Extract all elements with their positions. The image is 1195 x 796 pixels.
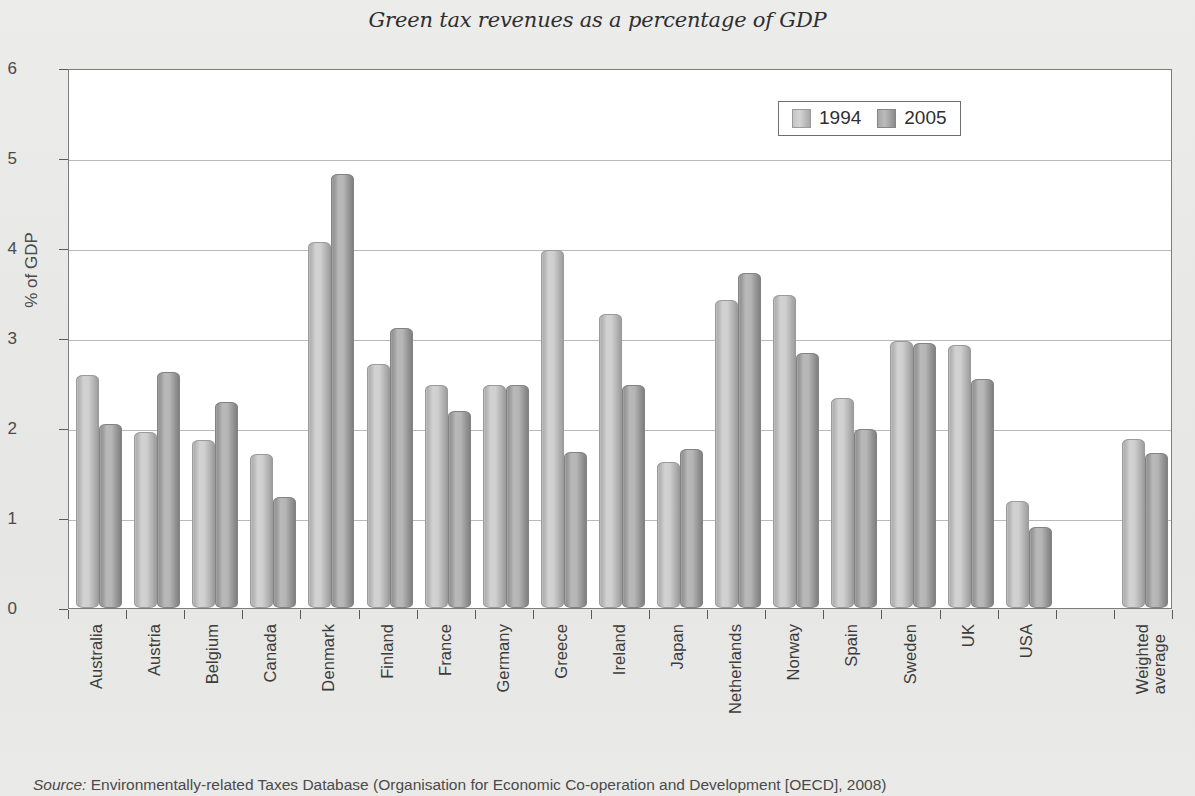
- x-tick-mark: [1172, 610, 1173, 619]
- bar: [99, 424, 122, 608]
- x-tick-mark: [707, 610, 708, 619]
- source-keyword: Source:: [33, 776, 86, 793]
- y-tick-mark: [59, 429, 68, 430]
- bar: [890, 341, 913, 608]
- legend-label: 1994: [819, 107, 861, 129]
- bar: [796, 353, 819, 608]
- x-tick-label: Weighted average: [1134, 624, 1169, 694]
- x-tick-mark: [765, 610, 766, 619]
- x-tick-label: UK: [960, 624, 977, 647]
- y-tick-mark: [59, 339, 68, 340]
- legend-swatch-icon: [877, 109, 896, 128]
- y-tick-label: 6: [0, 59, 17, 79]
- legend-label: 2005: [904, 107, 946, 129]
- bar: [913, 343, 936, 608]
- x-tick-mark: [881, 610, 882, 619]
- y-tick-mark: [59, 69, 68, 70]
- y-tick-mark: [59, 159, 68, 160]
- x-tick-mark: [1056, 610, 1057, 619]
- bar: [541, 250, 564, 608]
- bar: [657, 462, 680, 608]
- y-tick-label: 5: [0, 149, 17, 169]
- y-tick-mark: [59, 249, 68, 250]
- bar: [1145, 453, 1168, 608]
- legend: 1994 2005: [778, 101, 961, 136]
- bar: [483, 385, 506, 608]
- page-title: Green tax revenues as a percentage of GD…: [0, 8, 1195, 32]
- x-tick-label: Sweden: [902, 624, 919, 684]
- x-tick-label: Canada: [262, 624, 279, 682]
- bar: [948, 345, 971, 608]
- y-tick-label: 2: [0, 419, 17, 439]
- bar: [331, 174, 354, 608]
- x-tick-label: Australia: [88, 624, 105, 689]
- legend-swatch-icon: [792, 109, 811, 128]
- y-tick-label: 3: [0, 329, 17, 349]
- x-tick-label: Spain: [843, 624, 860, 667]
- bar: [76, 375, 99, 608]
- source-note: Source: Environmentally-related Taxes Da…: [33, 776, 887, 794]
- bar: [425, 385, 448, 608]
- x-tick-mark: [998, 610, 999, 619]
- gridline: [69, 250, 1171, 251]
- x-tick-mark: [184, 610, 185, 619]
- bar: [680, 449, 703, 609]
- x-tick-label: Finland: [379, 624, 396, 679]
- bar: [308, 242, 331, 609]
- bar: [773, 295, 796, 608]
- x-tick-mark: [940, 610, 941, 619]
- y-tick-label: 0: [0, 599, 17, 619]
- bar: [715, 300, 738, 608]
- x-tick-label: Norway: [785, 624, 802, 681]
- x-tick-label: Japan: [669, 624, 686, 669]
- bar: [831, 398, 854, 608]
- bar: [1029, 527, 1052, 608]
- x-tick-label: Austria: [146, 624, 163, 676]
- x-tick-label: Germany: [495, 624, 512, 693]
- x-tick-label: Denmark: [320, 624, 337, 692]
- bar: [157, 372, 180, 608]
- x-tick-label: Belgium: [204, 624, 221, 684]
- bar: [622, 385, 645, 608]
- bar: [192, 440, 215, 609]
- x-tick-mark: [591, 610, 592, 619]
- bar: [738, 273, 761, 608]
- bar: [971, 379, 994, 608]
- x-tick-mark: [68, 610, 69, 619]
- y-tick-label: 4: [0, 239, 17, 259]
- bar: [1122, 439, 1145, 608]
- legend-item-2005[interactable]: 2005: [877, 107, 946, 129]
- bar: [390, 328, 413, 608]
- x-tick-mark: [300, 610, 301, 619]
- gridline: [69, 160, 1171, 161]
- bar: [367, 364, 390, 608]
- figure-page: Green tax revenues as a percentage of GD…: [0, 0, 1195, 796]
- x-tick-mark: [126, 610, 127, 619]
- bar: [599, 314, 622, 609]
- x-tick-mark: [242, 610, 243, 619]
- x-tick-label: Greece: [553, 624, 570, 679]
- y-tick-label: 1: [0, 509, 17, 529]
- x-tick-label: Ireland: [611, 624, 628, 675]
- y-tick-mark: [59, 609, 68, 610]
- x-tick-mark: [649, 610, 650, 619]
- bar: [506, 385, 529, 608]
- bar: [250, 454, 273, 608]
- bar: [448, 411, 471, 608]
- x-tick-mark: [533, 610, 534, 619]
- x-tick-label: France: [437, 624, 454, 676]
- x-tick-mark: [1114, 610, 1115, 619]
- y-tick-mark: [59, 519, 68, 520]
- bar: [134, 432, 157, 608]
- x-tick-mark: [417, 610, 418, 619]
- legend-item-1994[interactable]: 1994: [792, 107, 861, 129]
- bar: [854, 429, 877, 608]
- x-tick-mark: [475, 610, 476, 619]
- x-tick-label: USA: [1018, 624, 1035, 658]
- bar: [1006, 501, 1029, 608]
- x-tick-mark: [823, 610, 824, 619]
- bar: [564, 452, 587, 608]
- bar: [273, 497, 296, 608]
- source-text: Environmentally-related Taxes Database (…: [86, 776, 886, 793]
- y-axis-title: % of GDP: [22, 232, 42, 308]
